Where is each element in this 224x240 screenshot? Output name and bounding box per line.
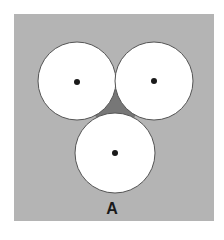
center-dot-icon (74, 79, 80, 85)
circle-bottom (75, 113, 155, 193)
circle-top-right (115, 42, 193, 120)
center-dot-icon (112, 150, 118, 156)
circle-top-left (38, 42, 116, 120)
figure-label: A (0, 200, 224, 218)
center-dot-icon (151, 78, 157, 84)
